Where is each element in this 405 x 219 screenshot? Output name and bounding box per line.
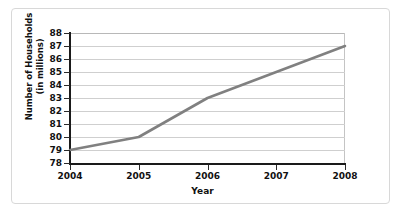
x-tick-label: 2008 [325, 171, 365, 181]
y-tick-label: 81 [38, 120, 62, 129]
y-tick-label: 78 [38, 159, 62, 168]
line-chart: Number of Households (in millions) Year … [0, 0, 405, 219]
y-tick-mark [64, 111, 70, 112]
x-tick-label: 2006 [188, 171, 228, 181]
y-tick-label: 84 [38, 81, 62, 90]
y-tick-label: 79 [38, 146, 62, 155]
x-tick-label: 2007 [256, 171, 296, 181]
y-tick-label: 88 [38, 29, 62, 38]
x-tick-label: 2005 [119, 171, 159, 181]
x-tick-mark [139, 165, 140, 170]
y-tick-mark [64, 46, 70, 47]
y-tick-mark [64, 85, 70, 86]
y-tick-mark [64, 150, 70, 151]
x-tick-mark [70, 165, 71, 170]
x-tick-mark [276, 165, 277, 170]
y-tick-label: 80 [38, 133, 62, 142]
x-axis-title: Year [0, 186, 405, 196]
y-tick-mark [64, 124, 70, 125]
y-tick-label: 85 [38, 68, 62, 77]
y-tick-mark [64, 33, 70, 34]
x-tick-label: 2004 [50, 171, 90, 181]
y-tick-label: 87 [38, 42, 62, 51]
y-tick-label: 86 [38, 55, 62, 64]
x-tick-mark [208, 165, 209, 170]
y-tick-label: 82 [38, 107, 62, 116]
series-line-households [70, 33, 345, 163]
y-tick-mark [64, 59, 70, 60]
y-tick-mark [64, 98, 70, 99]
y-tick-mark [64, 72, 70, 73]
y-tick-mark [64, 163, 70, 164]
y-tick-mark [64, 137, 70, 138]
x-tick-mark [345, 165, 346, 170]
y-axis-title-line1: Number of Households [24, 0, 35, 137]
y-tick-label: 83 [38, 94, 62, 103]
